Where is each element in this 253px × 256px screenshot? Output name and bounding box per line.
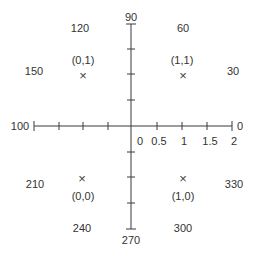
tick-label-2: 2 bbox=[231, 135, 237, 147]
axis-label-270: 270 bbox=[122, 234, 140, 246]
tick-label-1-5: 1.5 bbox=[202, 135, 217, 147]
point-marker-0-1: × bbox=[79, 69, 87, 82]
axis-label-90: 90 bbox=[125, 11, 137, 23]
angle-label-210: 210 bbox=[26, 178, 44, 190]
point-label-0-1: (0,1) bbox=[72, 54, 95, 66]
point-label-1-0: (1,0) bbox=[172, 190, 195, 202]
tick-label-0-5: 0.5 bbox=[151, 135, 166, 147]
point-label-1-1: (1,1) bbox=[171, 54, 194, 66]
axis-label-0-right: 0 bbox=[237, 120, 243, 132]
angle-label-300: 300 bbox=[174, 222, 192, 234]
angle-label-240: 240 bbox=[73, 222, 91, 234]
point-marker-1-0: × bbox=[179, 172, 187, 185]
angle-label-30: 30 bbox=[227, 65, 239, 77]
axis-label-100: 100 bbox=[11, 120, 29, 132]
diagram: 90 270 100 0 0 0.5 1 1.5 2 120 60 150 30… bbox=[0, 0, 253, 256]
tick-label-0: 0 bbox=[137, 135, 143, 147]
angle-label-330: 330 bbox=[225, 178, 243, 190]
angle-label-150: 150 bbox=[25, 65, 43, 77]
tick-label-1: 1 bbox=[181, 135, 187, 147]
angle-label-60: 60 bbox=[177, 22, 189, 34]
axes bbox=[0, 0, 253, 256]
point-marker-1-1: × bbox=[179, 69, 187, 82]
angle-label-120: 120 bbox=[71, 22, 89, 34]
point-label-0-0: (0,0) bbox=[72, 190, 95, 202]
point-marker-0-0: × bbox=[78, 172, 86, 185]
